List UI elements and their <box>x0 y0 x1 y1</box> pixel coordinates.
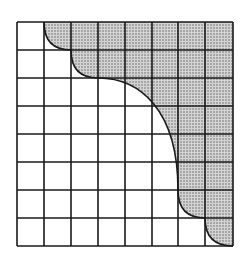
grid-diagram <box>0 0 244 261</box>
grid-figure <box>0 0 244 261</box>
